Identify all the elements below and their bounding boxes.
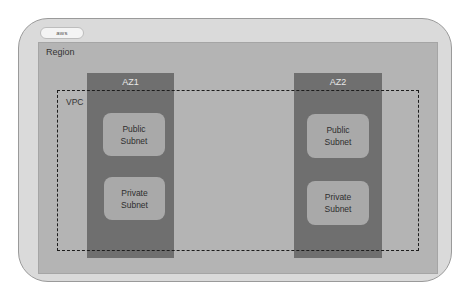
az2-public-subnet: Public Subnet [307, 114, 369, 158]
az1-public-subnet: Public Subnet [103, 113, 165, 156]
az1-private-subnet: Private Subnet [104, 177, 165, 220]
region-label: Region [46, 47, 75, 57]
aws-cloud-icon: aws [40, 27, 84, 39]
vpc-label: VPC [66, 97, 83, 107]
az2-label: AZ2 [294, 77, 382, 87]
az1-label: AZ1 [87, 77, 174, 87]
aws-logo-text: aws [56, 30, 68, 36]
az2-private-subnet: Private Subnet [307, 181, 369, 225]
